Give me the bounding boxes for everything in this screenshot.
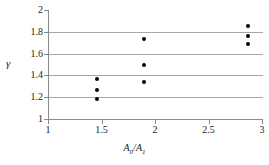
x-axis-title-sub-2: 1 <box>142 148 146 156</box>
x-tick-label: 1.5 <box>95 125 108 135</box>
y-tick <box>44 97 48 98</box>
x-tick-label: 2.5 <box>202 125 215 135</box>
x-axis-title: A0/A1 <box>0 143 269 156</box>
y-axis-title: γ <box>6 58 10 69</box>
x-tick-label: 2 <box>153 125 158 135</box>
gridline <box>49 54 263 55</box>
y-tick-label: 1.8 <box>31 27 44 37</box>
y-axis-line <box>48 10 49 120</box>
y-tick <box>44 75 48 76</box>
y-tick-label: 1 <box>38 114 43 124</box>
data-point <box>95 88 99 92</box>
data-point <box>142 80 146 84</box>
data-point <box>246 42 250 46</box>
data-point <box>246 24 250 28</box>
gridline <box>49 97 263 98</box>
y-tick-label: 2 <box>38 5 43 15</box>
y-tick <box>44 54 48 55</box>
gridline <box>49 75 263 76</box>
y-tick-label: 1.6 <box>31 49 44 59</box>
y-tick <box>44 32 48 33</box>
y-tick-label: 1.4 <box>31 70 44 80</box>
gridline <box>49 32 263 33</box>
x-tick-label: 3 <box>260 125 265 135</box>
scatter-chart-figure: γ 11.21.41.61.82 11.522.53 A0/A1 <box>0 0 269 165</box>
plot-area: 11.21.41.61.82 11.522.53 <box>48 10 262 119</box>
y-tick <box>44 10 48 11</box>
data-point <box>142 37 146 41</box>
x-tick-label: 1 <box>46 125 51 135</box>
data-point <box>95 77 99 81</box>
y-tick-label: 1.2 <box>31 92 44 102</box>
data-point <box>246 34 250 38</box>
data-point <box>142 63 146 67</box>
data-point <box>95 97 99 101</box>
